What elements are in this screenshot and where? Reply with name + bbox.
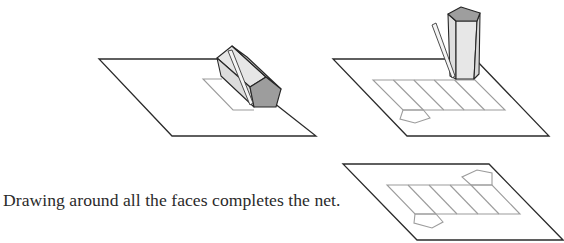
prism-front-face: [456, 21, 477, 79]
prism-top-pentagon: [448, 7, 480, 21]
paper-sheet: [99, 59, 316, 136]
figure-roll-and-trace: [333, 7, 549, 136]
caption-text: Drawing around all the faces completes t…: [3, 190, 340, 211]
figure-completed-net: [343, 164, 563, 240]
paper-sheet: [343, 164, 563, 240]
pentagonal-prism-upright: [448, 7, 480, 79]
paper-sheet: [333, 59, 549, 136]
figure-trace-first-face: [99, 46, 316, 136]
